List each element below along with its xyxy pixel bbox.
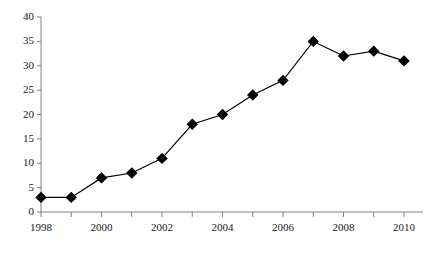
data-point-marker	[248, 90, 257, 99]
y-axis-tick-label: 40	[8, 11, 34, 22]
x-axis-tick-label: 2010	[382, 222, 426, 233]
y-axis-tick-label: 15	[8, 133, 34, 144]
axes	[37, 17, 423, 217]
y-axis-tick-label: 35	[8, 35, 34, 46]
x-axis-tick-label: 2006	[261, 222, 305, 233]
x-axis-tick-label: 2000	[80, 222, 124, 233]
y-axis-tick-label: 0	[8, 206, 34, 217]
x-axis-tick-label: 2008	[322, 222, 366, 233]
line-chart: 0510152025303540 19982000200220042006200…	[0, 0, 429, 254]
y-axis-tick-label: 10	[8, 157, 34, 168]
x-axis-tick-label: 2002	[140, 222, 184, 233]
data-point-marker	[127, 168, 136, 177]
y-axis-tick-label: 25	[8, 84, 34, 95]
plot-area	[0, 0, 429, 254]
x-axis-tick-label: 1998	[19, 222, 63, 233]
y-axis-tick-label: 5	[8, 182, 34, 193]
data-point-marker	[369, 47, 378, 56]
data-point-marker	[399, 56, 408, 65]
x-axis-tick-label: 2004	[201, 222, 245, 233]
data-point-marker	[67, 193, 76, 202]
data-point-marker	[218, 110, 227, 119]
data-point-marker	[36, 193, 45, 202]
data-series	[36, 37, 408, 202]
data-point-marker	[97, 173, 106, 182]
y-axis-tick-label: 20	[8, 109, 34, 120]
data-point-marker	[339, 51, 348, 60]
y-axis-tick-label: 30	[8, 60, 34, 71]
